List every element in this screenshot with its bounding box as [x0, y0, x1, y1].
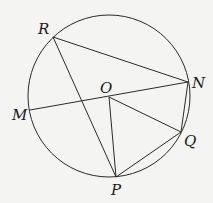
label-R: R: [37, 20, 49, 38]
geometry-diagram: R N M O Q P: [0, 0, 213, 203]
label-M: M: [11, 106, 28, 124]
segment-PQ: [116, 132, 181, 177]
label-O: O: [100, 79, 112, 97]
segment-RN: [53, 37, 188, 82]
segments: [30, 37, 188, 177]
point-labels: R N M O Q P: [11, 20, 206, 199]
label-P: P: [110, 181, 122, 199]
segment-OP: [109, 97, 116, 177]
label-N: N: [191, 74, 206, 92]
label-Q: Q: [184, 132, 196, 150]
diagram-canvas: R N M O Q P: [0, 0, 213, 203]
segment-RP: [53, 37, 116, 177]
segment-OQ: [109, 97, 181, 132]
